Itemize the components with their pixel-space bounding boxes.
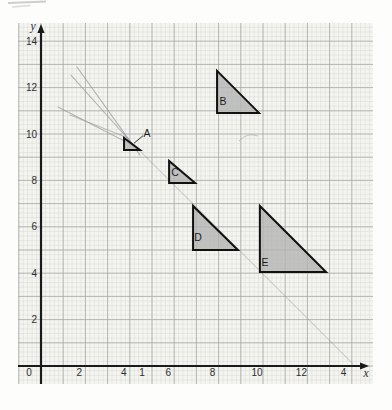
- x-tick-label-2: 2: [77, 367, 83, 378]
- scan-smudge: [8, 2, 46, 4]
- x-tick-label-8: 8: [210, 367, 216, 378]
- triangle-label-D: D: [194, 231, 202, 243]
- origin-label: 0: [26, 367, 32, 378]
- coordinate-grid-figure: xy246810124114121086420ABCDE: [0, 0, 392, 410]
- triangle-label-E: E: [261, 256, 268, 268]
- scan-smudge: [12, 6, 30, 8]
- scanned-graph-page: xy246810124114121086420ABCDE: [0, 0, 392, 410]
- triangle-label-B: B: [220, 95, 227, 107]
- x-axis-letter: x: [362, 367, 369, 379]
- x-tick-label-12: 12: [296, 367, 308, 378]
- x-tick-label-4: 4: [121, 367, 127, 378]
- y-tick-label-4: 4: [31, 268, 37, 279]
- y-tick-label-10: 10: [26, 129, 38, 140]
- triangle-label-A: A: [143, 127, 150, 139]
- triangle-label-C: C: [171, 166, 179, 178]
- x-tick-label-6: 6: [165, 367, 171, 378]
- x-tick-label-4: 4: [341, 367, 347, 378]
- y-axis-letter: y: [29, 20, 36, 33]
- x-tick-label-10: 10: [251, 367, 263, 378]
- y-tick-label-2: 2: [31, 314, 37, 325]
- y-tick-label-8: 8: [31, 175, 37, 186]
- x-axis-stray-mark: 1: [139, 367, 145, 378]
- y-tick-label-6: 6: [31, 221, 37, 232]
- y-tick-label-12: 12: [26, 82, 38, 93]
- y-tick-label-14: 14: [26, 36, 38, 47]
